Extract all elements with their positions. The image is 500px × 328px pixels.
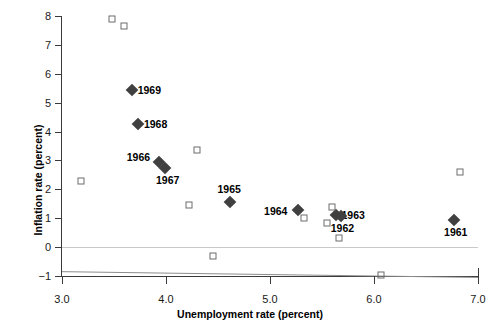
x-tick-label: 4.0 [158,294,173,305]
scatter-chart-figure: 876543210−1 3.04.05.06.07.0 196919681966… [0,0,500,328]
y-tick-label: 1 [45,213,51,224]
y-tick-label: 7 [45,39,51,50]
y-axis-title: Inflation rate (percent) [32,125,44,236]
data-point-square [301,215,308,222]
data-point-square [378,271,385,278]
y-tick [55,160,62,161]
data-point-label: 1966 [127,152,150,163]
y-tick-label: −1 [38,271,51,282]
data-point-square [324,219,331,226]
y-tick-label: 2 [45,184,51,195]
data-point-label: 1969 [138,85,161,96]
data-point-label: 1967 [156,175,179,186]
trend-line [62,16,478,277]
data-point-label: 1968 [144,119,167,130]
y-tick [55,103,62,104]
y-tick-label: 5 [45,97,51,108]
data-point-square [209,253,216,260]
x-tick [478,276,479,284]
x-tick [166,276,167,284]
data-point-label: 1962 [331,223,354,234]
y-tick-label: 4 [45,126,51,137]
plot-area: 876543210−1 3.04.05.06.07.0 196919681966… [62,16,478,276]
y-tick-label: 6 [45,68,51,79]
x-tick-label: 6.0 [366,294,381,305]
data-point-label: 1961 [444,227,467,238]
y-tick [55,247,62,248]
x-tick-label: 7.0 [470,294,485,305]
data-point-square [457,169,464,176]
y-tick [55,218,62,219]
data-point-square [329,203,336,210]
data-point-square [185,202,192,209]
y-tick-label: 8 [45,11,51,22]
y-tick-label: 3 [45,155,51,166]
y-tick [55,74,62,75]
y-tick [55,276,62,277]
y-tick [55,45,62,46]
data-point-square [194,147,201,154]
y-tick-label: 0 [45,242,51,253]
data-point-label: 1965 [217,184,240,195]
x-tick [374,276,375,284]
x-tick [270,276,271,284]
data-point-square [335,235,342,242]
x-tick [62,276,63,284]
x-tick-label: 5.0 [262,294,277,305]
y-tick [55,16,62,17]
data-point-square [77,177,84,184]
x-axis-title: Unemployment rate (percent) [0,308,500,320]
x-tick-label: 3.0 [54,294,69,305]
y-tick [55,189,62,190]
data-point-square [108,15,115,22]
data-point-label: 1964 [264,206,287,217]
data-point-square [121,23,128,30]
y-tick [55,132,62,133]
